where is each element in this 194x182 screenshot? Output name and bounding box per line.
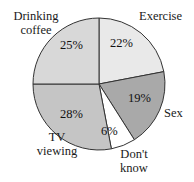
slice-label-tv-viewing: TV viewing xyxy=(29,131,85,158)
slice-label-line1: Don't xyxy=(120,147,147,161)
slice-label-line2: coffee xyxy=(21,23,52,37)
slice-label-line1: TV xyxy=(49,130,66,144)
slice-label-line1: Exercise xyxy=(139,9,182,23)
slice-label-exercise: Exercise xyxy=(139,10,182,24)
slice-label-dont-know: Don't know xyxy=(107,148,161,175)
slice-value-sex: 19% xyxy=(128,92,151,105)
slice-value-exercise: 22% xyxy=(110,37,133,50)
slice-value-tv-viewing: 28% xyxy=(60,108,83,121)
slice-label-line1: Sex xyxy=(164,106,183,120)
slice-label-line1: Drinking xyxy=(13,9,58,23)
slice-value-dont-know: 6% xyxy=(101,125,118,138)
slice-label-drinking-coffee: Drinking coffee xyxy=(3,10,69,37)
slice-label-line2: viewing xyxy=(37,144,77,158)
slice-value-drinking-coffee: 25% xyxy=(60,39,83,52)
slice-label-line2: know xyxy=(120,161,148,175)
pie-chart-figure: Drinking coffee Exercise Sex Don't know … xyxy=(0,0,194,182)
slice-label-sex: Sex xyxy=(164,107,183,121)
